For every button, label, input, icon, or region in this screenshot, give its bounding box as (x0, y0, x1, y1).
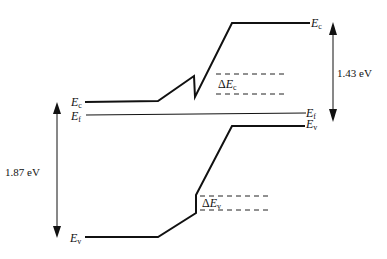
fermi-level (86, 113, 306, 115)
ec-right-label: Ec (310, 16, 322, 31)
ev-left-label: Ev (69, 231, 81, 246)
left-bandgap-value: 1.87 eV (5, 166, 40, 178)
ec-left-label: Ec (70, 95, 82, 110)
left-bandgap-arrow (53, 102, 61, 238)
conduction-band-edge (85, 23, 310, 102)
right-bandgap-arrow (329, 22, 337, 122)
ef-left-label: Ef (70, 109, 81, 124)
valence-band-edge (85, 126, 305, 237)
right-bandgap-value: 1.43 eV (337, 67, 372, 79)
band-diagram: Ec Ef Ev Ec Ef Ev ΔEc ΔEv 1.87 eV 1.43 e… (0, 0, 387, 259)
delta-ev-label: ΔEv (202, 196, 221, 211)
arrow-down-icon (53, 226, 61, 238)
arrow-up-icon (329, 22, 337, 35)
delta-ec-label: ΔEc (218, 77, 237, 92)
arrow-down-icon (329, 109, 337, 122)
arrow-up-icon (53, 102, 61, 114)
